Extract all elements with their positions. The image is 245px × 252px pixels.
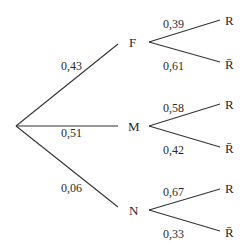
node-f: F [129,36,136,49]
leaf-f-r: R [225,14,234,27]
prob-f-rbar: 0,61 [163,60,184,72]
leaf-m-rbar: R̄ [225,142,234,155]
prob-n-rbar: 0,33 [163,228,184,240]
prob-m-r: 0,58 [163,102,184,114]
node-m: M [128,120,140,133]
leaf-f-rbar: R̄ [225,58,234,71]
leaf-m-r: R [225,98,234,111]
tree-branches [0,0,245,252]
prob-f-r: 0,39 [163,18,184,30]
prob-m: 0,51 [61,127,82,139]
prob-n-r: 0,67 [163,186,184,198]
prob-f: 0,43 [61,60,82,72]
node-n: N [129,204,138,217]
leaf-n-r: R [225,182,234,195]
leaf-n-rbar: R̄ [225,226,234,239]
prob-n: 0,06 [61,182,82,194]
prob-m-rbar: 0,42 [163,144,184,156]
